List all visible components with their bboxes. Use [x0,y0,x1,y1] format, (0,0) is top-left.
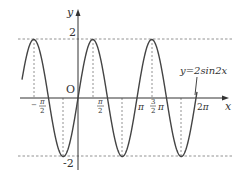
y-axis-arrow-icon [76,9,81,16]
svg-text:3: 3 [151,98,155,106]
y-tick-neg2: -2 [63,157,74,170]
x-tick-3-2-pi: 3 2 π [150,98,165,115]
x-axis-label: x [225,100,232,113]
svg-text:π: π [39,98,45,106]
svg-text:2: 2 [40,107,44,115]
sine-graph: y=2sin2x x y O 2 -2 − π 2 π 2 π 3 2 π 2π [0,0,247,179]
function-label: y=2sin2x [179,65,228,76]
svg-text:2: 2 [98,107,102,115]
svg-text:π: π [157,102,165,112]
x-tick-2pi: 2π [197,102,210,112]
y-axis-label: y [66,6,74,19]
y-tick-2: 2 [69,26,76,39]
svg-text:π: π [97,98,103,106]
svg-text:−: − [31,101,37,109]
x-tick-pi: π [137,102,145,112]
x-tick-pi-half: π 2 [97,98,104,115]
origin-label: O [66,83,75,96]
svg-text:2: 2 [151,107,155,115]
x-tick-neg-pi-half: − π 2 [31,98,46,115]
